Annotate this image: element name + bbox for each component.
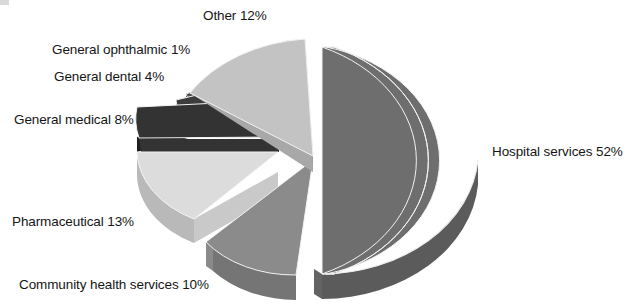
- pie-label-general-ophthalmic: General ophthalmic 1%: [52, 42, 190, 58]
- pie-label-general-dental: General dental 4%: [54, 69, 164, 85]
- slice-side-hospital-services-left: [314, 269, 322, 299]
- pie-label-pharmaceutical: Pharmaceutical 13%: [12, 214, 134, 230]
- pie-label-community-health-services: Community health services 10%: [19, 277, 209, 293]
- pie-label-general-medical: General medical 8%: [14, 112, 134, 128]
- slice-top-general-medical-bar: [139, 139, 279, 152]
- slice-top-other: [190, 39, 313, 156]
- pie-label-hospital-services: Hospital services 52%: [492, 144, 623, 160]
- slice-top-hospital-services-body: [322, 47, 416, 274]
- pie-label-other: Other 12%: [203, 8, 267, 24]
- pie-chart: Other 12% General ophthalmic 1% General …: [0, 0, 632, 306]
- pie-slice-hospital-services[interactable]: [314, 47, 478, 299]
